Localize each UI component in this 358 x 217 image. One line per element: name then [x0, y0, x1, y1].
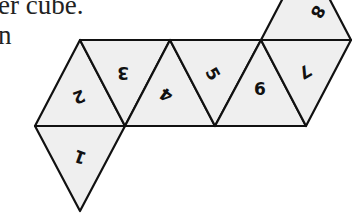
- face-8: [261, 0, 351, 40]
- face-label-3: 3: [117, 63, 129, 83]
- face-label-6: 6: [254, 79, 266, 99]
- octahedron-net: 8 2 3 4 5 6 7 1: [0, 0, 358, 217]
